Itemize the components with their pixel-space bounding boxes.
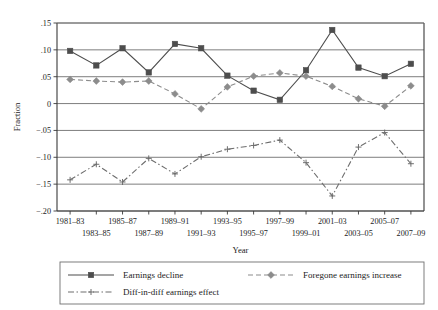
x-axis-title: Year [233,245,249,255]
data-point [145,78,152,85]
legend-label-foregone-earnings-increase: Foregone earnings increase [303,270,401,280]
x-tick-label: 2003–05 [344,229,373,238]
data-point [93,78,100,85]
x-tick-label: 1987–89 [134,229,163,238]
data-point [355,144,361,150]
data-point [250,73,257,80]
data-point [119,79,126,86]
data-point [407,82,414,89]
legend-box [60,262,424,304]
data-point [172,171,178,177]
x-tick-label: 1981–83 [56,217,85,226]
data-point [251,88,256,93]
legend-marker-0 [88,272,93,277]
x-tick-label: 1989–91 [161,217,190,226]
x-tick-label: 2007–09 [397,229,426,238]
x-tick-label: 1995–97 [239,229,268,238]
data-point [67,48,72,53]
legend-label-diff-in-diff-earnings-effect: Diff-in-diff earnings effect [123,287,219,297]
data-point [94,63,99,68]
series-line-2 [70,133,411,196]
data-point [146,70,151,75]
y-tick-label: .05 [41,73,51,82]
data-point [172,91,179,98]
data-point [303,73,310,80]
legend-label-earnings-decline: Earnings decline [123,270,183,280]
data-point [251,142,257,148]
y-tick-label: −.10 [36,153,51,162]
data-point [198,154,204,160]
x-tick-label: 1991–93 [187,229,216,238]
data-point [67,177,73,183]
data-point [225,73,230,78]
data-point [330,27,335,32]
data-point [355,95,362,102]
y-tick-label: −.20 [36,207,51,216]
line-chart: .15.10.050−.05−.10−.15−.201981–831983–85… [0,0,438,310]
legend-marker-2 [88,289,94,295]
chart-figure: .15.10.050−.05−.10−.15−.201981–831983–85… [0,0,438,310]
y-tick-label: .15 [41,19,51,28]
x-tick-label: 1999–01 [292,229,321,238]
y-axis-title: Fraction [12,102,22,131]
data-point [172,41,177,46]
x-tick-label: 1993–95 [213,217,242,226]
data-point [356,65,361,70]
data-point [93,161,99,167]
x-tick-label: 1997–99 [265,217,294,226]
data-point [382,73,387,78]
y-tick-label: −.15 [36,180,51,189]
x-tick-label: 2001–03 [318,217,347,226]
x-tick-label: 1985–87 [108,217,137,226]
x-tick-label: 1983–85 [82,229,111,238]
data-point [146,155,152,161]
data-point [198,106,205,113]
data-point [224,146,230,152]
y-tick-label: .10 [41,46,51,55]
y-tick-label: −.05 [36,126,51,135]
data-point [120,46,125,51]
legend-marker-1 [268,272,275,279]
data-point [329,83,336,90]
data-point [276,70,283,77]
x-tick-label: 2005–07 [370,217,399,226]
data-point [277,97,282,102]
data-point [408,61,413,66]
data-point [198,46,203,51]
data-point [303,68,308,73]
y-tick-label: 0 [47,100,51,109]
